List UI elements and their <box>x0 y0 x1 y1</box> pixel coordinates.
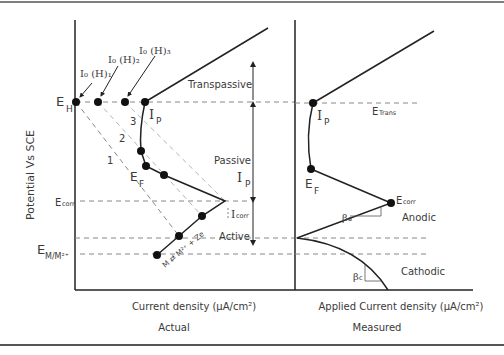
curve-dot-3 <box>175 232 183 240</box>
right-transpassive-line <box>313 31 434 103</box>
left-x-axis-label: Current density (μA/cm²) <box>132 301 256 312</box>
right-passive-curve <box>308 103 313 169</box>
right-ecorr-dot <box>387 199 395 207</box>
ef-dot <box>142 162 150 170</box>
ef-label: E <box>130 170 138 184</box>
right-cathodic-curve <box>297 238 388 290</box>
ef-label-sub: F <box>139 179 144 189</box>
right-panel: E Trans I P E F E corr β a β c Anodic Ca… <box>295 20 484 333</box>
e-trans-label-sub: Trans <box>378 109 397 117</box>
left-passive-curve <box>141 102 147 166</box>
passive-label: Passive <box>214 155 251 166</box>
i0-h3-dot <box>121 98 129 106</box>
dashed-line-1 <box>76 102 179 236</box>
right-x-axis-label: Applied Current density (μA/cm²) <box>319 301 484 312</box>
right-ef-dot <box>307 165 315 173</box>
right-ef-label: E <box>305 177 313 191</box>
icorr-label: I <box>231 208 235 221</box>
right-ip-label-sub: P <box>324 117 330 127</box>
transpassive-label: Transpassive <box>187 79 252 90</box>
e-trans-label: E <box>372 106 378 117</box>
anodic-label: Anodic <box>402 212 436 223</box>
i0-h2-dot <box>94 98 102 106</box>
right-ecorr-label: E <box>396 195 402 206</box>
line-1-label: 1 <box>107 155 113 166</box>
right-ecorr-label-sub: corr <box>403 198 416 206</box>
left-panel: I₀ (H)₁ I₀ (H)₂ I₀ (H)₃ E H I P 3 2 1 E … <box>37 20 295 333</box>
ecorr-label-sub: corr <box>62 200 75 208</box>
beta-a-label-sub: a <box>348 215 352 223</box>
right-ip-label: I <box>317 108 322 123</box>
reaction-label: M ⇄ M²⁺ + Ze <box>161 229 207 269</box>
emm-label: E <box>37 242 45 257</box>
curve-dot-1 <box>160 171 168 179</box>
eh-label-sub: H <box>66 104 73 114</box>
polarization-diagram: Potential Vs SCE I₀ (H) <box>0 0 504 355</box>
i0-h1-label: I₀ (H)₁ <box>80 68 112 79</box>
beta-c-label-sub: c <box>359 274 363 282</box>
right-ef-label-sub: F <box>314 186 319 196</box>
passive-ip-label-sub: P <box>245 179 251 189</box>
y-axis-label: Potential Vs SCE <box>24 130 37 220</box>
beta-a-triangle <box>350 206 381 216</box>
passive-dot <box>137 147 145 155</box>
i0-h3-label: I₀ (H)₃ <box>139 45 171 56</box>
i0-h2-label: I₀ (H)₂ <box>108 54 140 65</box>
right-caption: Measured <box>353 322 402 333</box>
eh-dot <box>72 98 80 106</box>
ip-label-sub: P <box>156 116 162 126</box>
eh-label: E <box>56 94 64 109</box>
ip-label: I <box>149 107 154 122</box>
icorr-label-sub: corr <box>236 212 249 220</box>
left-transpassive-line <box>145 28 268 102</box>
beta-c-triangle <box>365 265 381 281</box>
right-ip-dot <box>309 99 317 107</box>
ecorr-label: E <box>55 197 61 208</box>
line-3-label: 3 <box>130 116 136 127</box>
left-caption: Actual <box>158 322 189 333</box>
emm-dot <box>153 251 161 259</box>
curve-dot-2 <box>198 212 206 220</box>
active-label: Active <box>219 231 250 242</box>
emm-label-sub: M/M²⁺ <box>45 252 69 261</box>
ip-dot <box>141 98 149 106</box>
line-2-label: 2 <box>119 133 125 144</box>
passive-ip-label: I <box>237 170 242 185</box>
cathodic-label: Cathodic <box>401 266 445 277</box>
i0-h1-arrow <box>80 83 92 97</box>
